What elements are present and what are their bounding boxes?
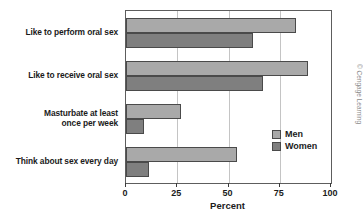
legend: MenWomen [272,129,317,151]
x-axis-tick-label: 100 [322,188,337,198]
x-axis-tick [228,183,229,187]
category-label-line: Like to perform oral sex [0,27,118,37]
category-label: Like to perform oral sex [0,27,118,37]
x-axis-tick [330,183,331,187]
category-label-line: once per week [0,118,118,128]
category-label-line: Like to receive oral sex [0,70,118,80]
category-label: Masturbate at leastonce per week [0,108,118,128]
category-label-line: Masturbate at least [0,108,118,118]
plot-area [125,10,332,184]
x-axis-tick [176,183,177,187]
bar [126,147,237,162]
bar [126,33,253,48]
x-axis-label: Percent [125,200,330,211]
bar [126,76,263,91]
x-axis-tick-label: 50 [222,188,232,198]
legend-item: Women [272,141,317,151]
x-axis-tick-label: 0 [122,188,127,198]
category-label: Think about sex every day [0,156,118,166]
bar [126,61,308,76]
bar [126,162,149,177]
bar [126,18,296,33]
x-axis-tick-label: 25 [171,188,181,198]
legend-label: Men [285,129,303,139]
legend-swatch-icon [272,130,281,139]
copyright-credit: © Cengage Learning [356,64,363,124]
x-axis-tick-label: 75 [274,188,284,198]
x-axis-tick [125,183,126,187]
x-axis-tick [279,183,280,187]
legend-item: Men [272,129,317,139]
legend-label: Women [285,141,317,151]
bar [126,119,144,134]
category-axis-labels: Like to perform oral sexLike to receive … [0,10,122,182]
category-label: Like to receive oral sex [0,70,118,80]
category-label-line: Think about sex every day [0,156,118,166]
chart-figure: Like to perform oral sexLike to receive … [0,0,363,223]
gridline [280,11,281,183]
legend-swatch-icon [272,142,281,151]
bar [126,104,181,119]
